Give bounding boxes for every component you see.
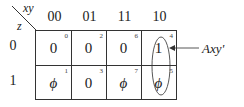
col-header-00: 00 — [37, 9, 72, 25]
cell-value: 0 — [71, 40, 106, 57]
cell-value: ϕ — [36, 75, 71, 92]
kmap-cell-m3: 0 3 — [71, 66, 106, 101]
cell-value: 0 — [36, 40, 71, 57]
kmap-cell-m1: ϕ 1 — [36, 66, 71, 101]
group-term-label: Axy' — [202, 41, 224, 57]
col-header-10: 10 — [142, 9, 177, 25]
minterm-index: 4 — [170, 32, 174, 40]
minterm-index: 1 — [65, 67, 69, 75]
minterm-index: 7 — [135, 67, 139, 75]
cell-value: ϕ — [106, 75, 141, 92]
kmap-cell-m2: 0 2 — [71, 31, 106, 66]
cell-value: ϕ — [141, 75, 176, 92]
minterm-index: 2 — [100, 32, 104, 40]
cell-value: 0 — [71, 75, 106, 92]
col-header-11: 11 — [107, 9, 142, 25]
cell-value: 0 — [106, 40, 141, 57]
row-variable-label: z — [17, 19, 22, 34]
kmap-cell-m6: 0 6 — [106, 31, 141, 66]
kmap-cell-m0: 0 0 — [36, 31, 71, 66]
row-header-1: 1 — [6, 73, 20, 89]
kmap-cell-m7: ϕ 7 — [106, 66, 141, 101]
col-variable-label: xy — [23, 1, 34, 16]
minterm-index: 0 — [65, 32, 69, 40]
col-header-01: 01 — [72, 9, 107, 25]
row-header-0: 0 — [6, 38, 20, 54]
minterm-index: 3 — [100, 67, 104, 75]
kmap-grid: 0 0 0 2 0 6 1 4 ϕ 1 0 3 ϕ 7 ϕ 5 — [35, 30, 177, 100]
cell-value: 1 — [141, 40, 176, 57]
minterm-index: 6 — [135, 32, 139, 40]
minterm-index: 5 — [170, 67, 174, 75]
kmap-cell-m4: 1 4 — [141, 31, 176, 66]
kmap-cell-m5: ϕ 5 — [141, 66, 176, 101]
